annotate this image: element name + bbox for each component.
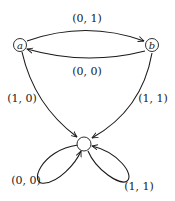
edge-c-loop-00 bbox=[37, 145, 81, 183]
edge-c-loop-11 bbox=[88, 146, 129, 182]
edge-label-c-loop-00: (0, 0) bbox=[11, 174, 41, 187]
edge-label-c-loop-11: (1, 1) bbox=[124, 180, 154, 193]
edge-label-b-to-c: (1, 1) bbox=[138, 92, 168, 105]
edge-label-a-to-b: (0, 1) bbox=[72, 12, 102, 25]
node-b: b bbox=[146, 39, 159, 52]
edge-a-to-b bbox=[27, 31, 144, 42]
node-b-label: b bbox=[149, 40, 155, 51]
edge-b-to-a bbox=[27, 49, 145, 58]
node-c bbox=[77, 137, 91, 151]
state-diagram: a b (0, 1) (0, 0) (1, 0) (1, 1) (0, 0) (… bbox=[0, 0, 175, 201]
edge-label-a-to-c: (1, 0) bbox=[7, 92, 37, 105]
node-a-label: a bbox=[17, 40, 23, 51]
node-a: a bbox=[14, 39, 27, 52]
edge-label-b-to-a: (0, 0) bbox=[72, 65, 102, 78]
